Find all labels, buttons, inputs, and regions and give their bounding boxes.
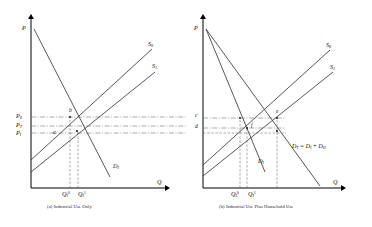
panel-b-supply-0-label: S0 <box>326 41 331 49</box>
panel-b-supply-1 <box>203 72 333 176</box>
panel-a-point-b-dot <box>69 116 71 118</box>
panel-b-point-e-dot <box>276 117 278 119</box>
panel-b-x-axis-label: Q <box>333 178 337 185</box>
panel-b-point-e-label: e <box>276 108 278 114</box>
panel-a-group <box>31 18 186 188</box>
panel-b-point-f-label: f <box>251 122 253 128</box>
panel-a-x-axis-label: Q <box>157 178 161 185</box>
panel-b-quantity-qi1-label: QI1 <box>248 190 256 198</box>
panel-a-demand-industrial-label: DI <box>113 162 119 170</box>
panel-b-quantity-qi0-label: QI0 <box>231 190 239 198</box>
panel-a-y-axis-label: P <box>22 24 26 31</box>
panel-a-price-pi-label: PI <box>16 129 21 137</box>
panel-b-demand-industrial <box>206 29 265 172</box>
panel-b-demand-industrial-label: DI <box>258 157 264 165</box>
panel-a-price-pt-label: PT <box>16 121 22 129</box>
economics-figure: P Q S0 S1 DI P0 PT PI QI0 QI1 b a (a) In… <box>0 0 372 227</box>
panel-a-quantity-qi0-label: QI0 <box>62 190 70 198</box>
panel-b-supply-1-label: S1 <box>330 63 335 71</box>
panel-a-quantity-qi1-label: QI1 <box>78 190 86 198</box>
panel-b-y-axis-label: P <box>194 24 198 31</box>
panel-b-point-f-dot <box>276 130 278 132</box>
panel-b-caption: (b) Industrial Use Plus Household Use <box>219 204 294 209</box>
panel-a-supply-1 <box>31 72 155 172</box>
panel-a-demand-industrial <box>34 29 110 177</box>
panel-a-point-b-label: b <box>69 107 72 113</box>
panel-a-point-a-label: a <box>53 129 56 135</box>
panel-a-supply-1-label: S1 <box>152 62 157 70</box>
panel-a-supply-0-label: S0 <box>148 40 153 48</box>
panel-a-caption: (a) Industrial Use Only <box>47 204 92 209</box>
panel-b-demand-total-identity: DT = DI + DH <box>292 143 326 150</box>
panel-b-group <box>203 18 342 188</box>
panel-a-point-a-dot <box>76 130 78 132</box>
panel-b-price-c-label: c <box>195 112 197 118</box>
panel-a-price-p0-label: P0 <box>16 112 22 120</box>
panel-a-supply-0 <box>31 49 152 160</box>
panel-b-point-qi0-dot <box>239 117 241 119</box>
panel-b-point-qi1-dot <box>246 127 248 129</box>
panel-b-price-d-label: d <box>195 123 198 129</box>
diagram-canvas <box>0 0 372 227</box>
